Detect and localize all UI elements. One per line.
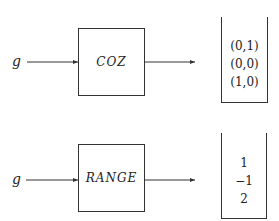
stack-item: −1: [235, 172, 253, 190]
stack-item: (0,1): [230, 37, 258, 55]
stack-item: (1,0): [230, 73, 258, 91]
function-box-range: RANGE: [78, 144, 145, 212]
function-label-2: RANGE: [86, 171, 138, 185]
output-stack-2: 1 −1 2: [221, 133, 267, 219]
stack-item: (0,0): [230, 55, 258, 73]
function-label-1: COZ: [96, 55, 126, 69]
input-label-1: g: [12, 54, 21, 68]
stack-item: 1: [240, 154, 248, 172]
input-label-2: g: [12, 172, 21, 186]
stack-item: 2: [240, 190, 248, 208]
function-box-coz: COZ: [78, 28, 145, 96]
output-stack-1: (0,1) (0,0) (1,0): [221, 17, 268, 103]
